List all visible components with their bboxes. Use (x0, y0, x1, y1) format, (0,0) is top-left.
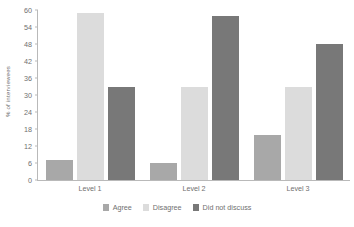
y-axis-tick-label: 36 (24, 74, 35, 83)
legend-swatch-icon (103, 204, 110, 211)
y-axis-tick: 0 (28, 176, 38, 185)
bar-disagree-level-2 (181, 87, 208, 181)
bar-did-not-discuss-level-3 (316, 44, 343, 180)
y-axis-tick: 36 (24, 74, 38, 83)
y-axis-tick-label: 42 (24, 57, 35, 66)
bar-agree-level-2 (150, 163, 177, 180)
y-axis-tick-mark (35, 27, 38, 28)
x-axis-group-label: Level 1 (78, 184, 101, 193)
y-axis-tick-label: 54 (24, 23, 35, 32)
chart-legend: AgreeDisagreeDid not discuss (0, 203, 354, 212)
y-axis-tick-mark (35, 78, 38, 79)
y-axis-tick: 48 (24, 40, 38, 49)
y-axis-tick: 30 (24, 91, 38, 100)
y-axis-tick: 60 (24, 6, 38, 15)
y-axis-tick-mark (35, 44, 38, 45)
legend-item-agree[interactable]: Agree (103, 203, 132, 212)
bar-disagree-level-1 (77, 13, 104, 180)
x-axis-group-label: Level 2 (182, 184, 205, 193)
y-axis-tick-label: 60 (24, 6, 35, 15)
bar-disagree-level-3 (285, 87, 312, 181)
x-axis-group-label: Level 3 (286, 184, 309, 193)
bar-agree-level-3 (254, 135, 281, 180)
legend-item-disagree[interactable]: Disagree (143, 203, 182, 212)
y-axis-tick: 18 (24, 125, 38, 134)
y-axis-tick: 24 (24, 108, 38, 117)
y-axis-tick: 6 (28, 159, 38, 168)
legend-label: Did not discuss (203, 203, 252, 212)
y-axis-tick-mark (35, 180, 38, 181)
y-axis-tick-label: 6 (28, 159, 35, 168)
plot-area: 06121824303642485460 Level 1Level 2Level… (38, 10, 350, 180)
y-axis-tick-label: 18 (24, 125, 35, 134)
y-axis-tick-label: 48 (24, 40, 35, 49)
y-axis-tick-label: 24 (24, 108, 35, 117)
legend-item-did-not-discuss[interactable]: Did not discuss (193, 203, 252, 212)
legend-swatch-icon (193, 204, 200, 211)
y-axis-tick-label: 12 (24, 142, 35, 151)
y-axis-tick-label: 30 (24, 91, 35, 100)
x-axis-line (37, 180, 350, 181)
y-axis-title-label: % of interviewees (5, 65, 12, 116)
y-axis-title: % of interviewees (0, 0, 16, 182)
y-axis-tick-mark (35, 146, 38, 147)
y-axis-tick-mark (35, 129, 38, 130)
legend-label: Agree (113, 203, 132, 212)
y-axis-tick-mark (35, 95, 38, 96)
bar-agree-level-1 (46, 160, 73, 180)
y-axis-tick-mark (35, 61, 38, 62)
y-axis-tick-mark (35, 163, 38, 164)
y-axis-tick: 12 (24, 142, 38, 151)
legend-label: Disagree (153, 203, 182, 212)
y-axis-tick-label: 0 (28, 176, 35, 185)
y-axis-tick: 42 (24, 57, 38, 66)
y-axis-tick: 54 (24, 23, 38, 32)
legend-swatch-icon (143, 204, 150, 211)
bar-chart: % of interviewees 06121824303642485460 L… (0, 0, 354, 227)
bar-did-not-discuss-level-1 (108, 87, 135, 181)
y-axis-tick-mark (35, 10, 38, 11)
bar-did-not-discuss-level-2 (212, 16, 239, 180)
y-axis-tick-mark (35, 112, 38, 113)
